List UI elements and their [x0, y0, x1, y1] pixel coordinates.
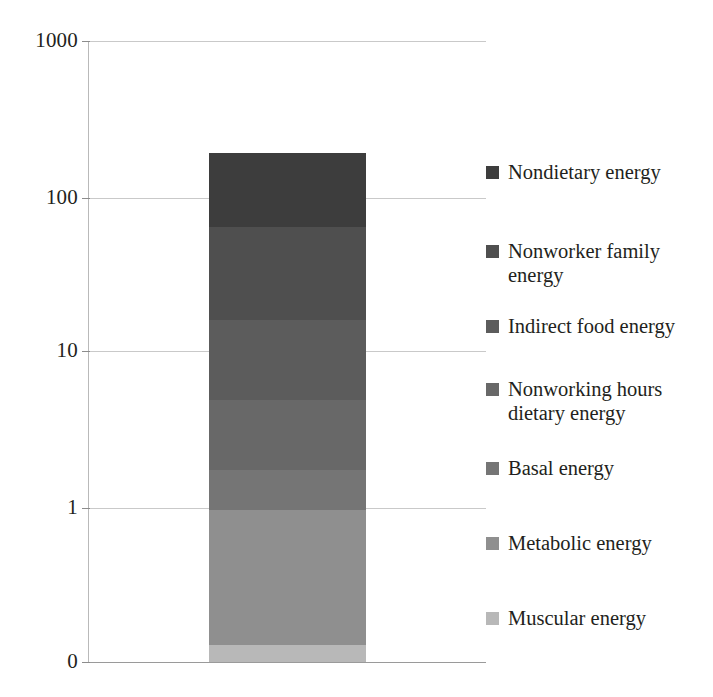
legend-label-nonworker-family-energy: Nonworker family energy [508, 240, 660, 288]
legend-item-indirect-food-energy[interactable]: Indirect food energy [486, 315, 713, 339]
bar-segment-basal-energy[interactable] [209, 470, 366, 510]
legend-item-basal-energy[interactable]: Basal energy [486, 457, 713, 481]
gridline-1000 [88, 41, 486, 42]
legend-item-nondietary-energy[interactable]: Nondietary energy [486, 161, 713, 185]
legend-item-muscular-energy[interactable]: Muscular energy [486, 607, 713, 631]
legend-item-metabolic-energy[interactable]: Metabolic energy [486, 532, 713, 556]
y-tick-mark-0 [82, 662, 90, 663]
y-tick-label-10: 10 [4, 340, 78, 361]
y-tick-mark-1000 [82, 41, 90, 42]
bar-segment-nonworker-family-energy[interactable] [209, 227, 366, 320]
y-tick-mark-1 [82, 508, 90, 509]
y-tick-label-1: 1 [4, 497, 78, 518]
y-tick-label-100: 100 [4, 187, 78, 208]
legend-label-muscular-energy: Muscular energy [508, 607, 646, 631]
legend-item-nonworker-family-energy[interactable]: Nonworker family energy [486, 240, 713, 288]
legend-label-indirect-food-energy: Indirect food energy [508, 315, 675, 339]
legend-swatch-icon-metabolic-energy [486, 537, 499, 550]
legend-label-metabolic-energy: Metabolic energy [508, 532, 652, 556]
y-axis-line [88, 41, 89, 663]
legend-item-nonworking-hours-dietary-energy[interactable]: Nonworking hours dietary energy [486, 378, 713, 426]
bar-segment-muscular-energy[interactable] [209, 645, 366, 662]
legend-swatch-icon-nondietary-energy [486, 166, 499, 179]
y-tick-mark-100 [82, 198, 90, 199]
chart-figure: 1000 100 10 1 0 Nondietary energy [0, 0, 713, 697]
legend-swatch-icon-indirect-food-energy [486, 320, 499, 333]
x-axis-line [88, 662, 486, 663]
stacked-bar-column[interactable] [209, 153, 366, 662]
legend-label-nonworking-hours-dietary-energy: Nonworking hours dietary energy [508, 378, 662, 426]
legend-swatch-icon-nonworking-hours-dietary-energy [486, 383, 499, 396]
bar-segment-metabolic-energy[interactable] [209, 510, 366, 645]
y-tick-label-1000: 1000 [4, 30, 78, 51]
bar-segment-nonworking-hours-dietary-energy[interactable] [209, 400, 366, 470]
y-tick-label-0: 0 [4, 651, 78, 672]
legend-label-nondietary-energy: Nondietary energy [508, 161, 661, 185]
plot-area: 1000 100 10 1 0 [0, 0, 713, 697]
y-tick-mark-10 [82, 351, 90, 352]
legend-swatch-icon-basal-energy [486, 462, 499, 475]
bar-segment-nondietary-energy[interactable] [209, 153, 366, 227]
legend-label-basal-energy: Basal energy [508, 457, 614, 481]
bar-segment-indirect-food-energy[interactable] [209, 320, 366, 400]
legend-swatch-icon-muscular-energy [486, 612, 499, 625]
legend-swatch-icon-nonworker-family-energy [486, 245, 499, 258]
